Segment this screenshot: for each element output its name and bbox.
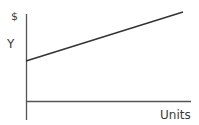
y-intercept-label: Y <box>7 38 14 50</box>
x-axis-label: Units <box>160 109 191 121</box>
cost-line <box>26 12 183 61</box>
y-axis-unit-label: $ <box>11 11 18 22</box>
diagram-graphics <box>0 0 199 125</box>
cost-volume-diagram: $ Y Units <box>0 0 199 125</box>
